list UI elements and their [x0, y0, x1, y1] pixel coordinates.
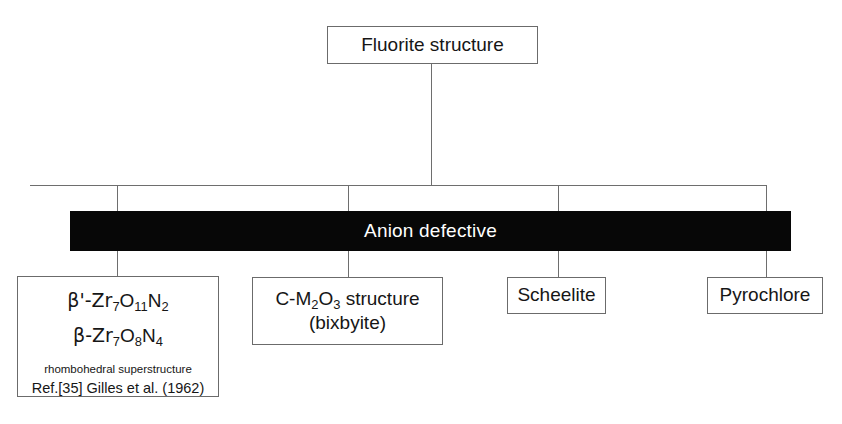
label-pyrochlore: Pyrochlore [720, 284, 811, 306]
formula-2-prefix: β-Zr [73, 324, 113, 346]
banner-label: Anion defective [364, 220, 497, 242]
formula-2-sub-2: 8 [135, 334, 142, 349]
connector-leaf-drop-3 [558, 251, 559, 277]
label-c-m2o3-structure: C-M2O3 structure [275, 288, 419, 310]
formula-2-sub-3: 4 [156, 334, 163, 349]
connector-bus-drop-4 [766, 185, 767, 211]
formula-1-sub-2: 11 [134, 299, 147, 314]
formula-2-sub-1: 7 [113, 334, 120, 349]
cm2o3-prefix: C-M [275, 288, 311, 309]
connector-bus-drop-2 [348, 185, 349, 211]
node-c-m2o3-structure: C-M2O3 structure (bixbyite) [252, 277, 443, 345]
label-bixbyite: (bixbyite) [309, 312, 386, 334]
formula-1-mid-2: N [148, 290, 162, 311]
node-scheelite: Scheelite [507, 277, 606, 314]
note-rhombohedral-superstructure: rhombohedral superstructure [44, 363, 192, 377]
formula-beta-zr7o8n4: β-Zr7O8N4 [73, 324, 163, 347]
node-label-fluorite-structure: Fluorite structure [361, 34, 504, 56]
connector-leaf-drop-2 [348, 251, 349, 277]
connector-bus-drop-1 [117, 185, 118, 211]
formula-2-mid-1: O [120, 325, 135, 346]
formula-1-sub-3: 2 [161, 299, 168, 314]
diagram-canvas: Fluorite structure Anion defective β'-Zr… [0, 0, 842, 424]
formula-1-prefix: β'-Zr [67, 289, 112, 311]
node-fluorite-structure: Fluorite structure [327, 26, 538, 64]
formula-2-mid-2: N [142, 325, 156, 346]
cm2o3-mid: O [318, 288, 333, 309]
node-zr-oxynitrides: β'-Zr7O11N2 β-Zr7O8N4 rhombohedral super… [17, 276, 219, 397]
formula-beta-prime-zr7o11n2: β'-Zr7O11N2 [67, 289, 168, 312]
connector-leaf-drop-1 [117, 251, 118, 276]
node-pyrochlore: Pyrochlore [707, 277, 823, 314]
reference-citation: Ref.[35] Gilles et al. (1962) [32, 380, 204, 397]
connector-root-stem [431, 64, 432, 185]
connector-leaf-drop-4 [766, 251, 767, 277]
connector-bus-drop-3 [558, 185, 559, 211]
connector-horizontal-bus [30, 185, 767, 186]
banner-anion-defective: Anion defective [70, 211, 791, 251]
formula-1-mid-1: O [120, 290, 135, 311]
cm2o3-suffix: structure [340, 288, 419, 309]
label-scheelite: Scheelite [517, 284, 595, 306]
formula-1-sub-1: 7 [112, 299, 119, 314]
